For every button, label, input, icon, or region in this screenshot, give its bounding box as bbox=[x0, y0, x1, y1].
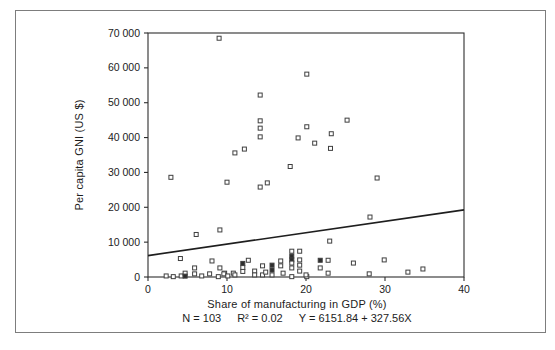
data-point-marker bbox=[298, 249, 302, 253]
x-axis-title: Share of manufacturing in GDP (%) bbox=[207, 298, 386, 310]
data-point-marker bbox=[326, 271, 330, 275]
data-point-marker bbox=[225, 180, 229, 184]
y-tick-label: 10 000 bbox=[108, 236, 140, 248]
data-point-marker bbox=[216, 275, 220, 279]
data-point-marker bbox=[217, 36, 221, 40]
data-point-marker bbox=[382, 258, 386, 262]
data-point-marker bbox=[258, 93, 262, 97]
data-point-marker bbox=[218, 228, 222, 232]
data-point-marker bbox=[279, 264, 283, 268]
y-tick-label: 30 000 bbox=[108, 166, 140, 178]
data-point-marker bbox=[226, 274, 230, 278]
y-tick-label: 60 000 bbox=[108, 61, 140, 73]
data-point-marker bbox=[178, 257, 182, 261]
data-point-marker bbox=[305, 72, 309, 76]
data-point-marker bbox=[290, 275, 294, 279]
r-squared-value: R² = 0.02 bbox=[237, 312, 283, 324]
y-axis-title: Per capita GNI (US $) bbox=[73, 99, 85, 210]
data-point-marker bbox=[258, 185, 262, 189]
data-point-marker bbox=[290, 266, 294, 270]
data-point-marker bbox=[298, 263, 302, 267]
data-point-marker bbox=[270, 273, 274, 277]
y-tick-label: 20 000 bbox=[108, 201, 140, 213]
data-point-marker bbox=[253, 273, 257, 277]
data-point-marker bbox=[328, 239, 332, 243]
data-point-marker bbox=[193, 266, 197, 270]
data-point-marker bbox=[171, 275, 175, 279]
data-point-marker bbox=[421, 267, 425, 271]
data-point-marker bbox=[233, 273, 237, 277]
data-point-marker bbox=[279, 259, 283, 263]
y-tick-label: 0 bbox=[134, 271, 140, 283]
chart-figure: 010 00020 00030 00040 00050 00060 00070 … bbox=[0, 0, 555, 350]
data-point-marker bbox=[298, 258, 302, 262]
y-tick-label: 40 000 bbox=[108, 131, 140, 143]
data-point-marker bbox=[241, 269, 245, 273]
regression-equation: Y = 6151.84 + 327.56X bbox=[299, 312, 412, 324]
x-tick-label: 30 bbox=[379, 283, 391, 295]
data-point-marker bbox=[406, 270, 410, 274]
data-point-marker bbox=[351, 261, 355, 265]
data-point-marker bbox=[318, 258, 322, 262]
n-value: N = 103 bbox=[182, 312, 221, 324]
data-point-marker bbox=[246, 258, 250, 262]
data-point-marker bbox=[261, 264, 265, 268]
data-point-marker bbox=[200, 274, 204, 278]
x-tick-label: 40 bbox=[458, 283, 470, 295]
data-point-marker bbox=[210, 259, 214, 263]
data-point-marker bbox=[258, 135, 262, 139]
data-point-marker bbox=[222, 272, 226, 276]
regression-stats: N = 103R² = 0.02Y = 6151.84 + 327.56X bbox=[174, 312, 419, 324]
data-point-marker bbox=[298, 269, 302, 273]
data-point-marker bbox=[270, 263, 274, 267]
data-point-marker bbox=[169, 175, 173, 179]
data-point-marker bbox=[329, 132, 333, 136]
data-point-marker bbox=[281, 271, 285, 275]
data-point-marker bbox=[375, 176, 379, 180]
data-point-marker bbox=[258, 126, 262, 130]
data-point-marker bbox=[296, 136, 300, 140]
data-point-marker bbox=[179, 274, 183, 278]
data-point-marker bbox=[290, 249, 294, 253]
data-point-marker bbox=[304, 273, 308, 277]
data-point-marker bbox=[258, 119, 262, 123]
data-point-marker bbox=[265, 181, 269, 185]
data-point-marker bbox=[208, 272, 212, 276]
data-point-marker bbox=[233, 151, 237, 155]
data-point-marker bbox=[345, 118, 349, 122]
data-point-marker bbox=[241, 261, 245, 265]
data-point-marker bbox=[194, 232, 198, 236]
data-point-marker bbox=[264, 270, 268, 274]
data-point-marker bbox=[193, 272, 197, 276]
plot-border bbox=[148, 33, 464, 277]
data-point-marker bbox=[318, 266, 322, 270]
data-point-marker bbox=[164, 274, 168, 278]
data-point-marker bbox=[290, 261, 294, 265]
data-point-marker bbox=[326, 258, 330, 262]
data-point-marker bbox=[288, 165, 292, 169]
data-point-marker bbox=[183, 274, 187, 278]
data-point-marker bbox=[368, 215, 372, 219]
x-tick-label: 20 bbox=[300, 283, 312, 295]
data-point-marker bbox=[313, 141, 317, 145]
data-point-marker bbox=[367, 272, 371, 276]
x-tick-label: 10 bbox=[221, 283, 233, 295]
data-point-marker bbox=[242, 147, 246, 151]
y-tick-label: 70 000 bbox=[108, 27, 140, 39]
x-tick-label: 0 bbox=[145, 283, 151, 295]
data-point-marker bbox=[305, 125, 309, 129]
y-tick-label: 50 000 bbox=[108, 96, 140, 108]
data-point-marker bbox=[218, 266, 222, 270]
data-point-marker bbox=[270, 268, 274, 272]
data-point-marker bbox=[328, 146, 332, 150]
